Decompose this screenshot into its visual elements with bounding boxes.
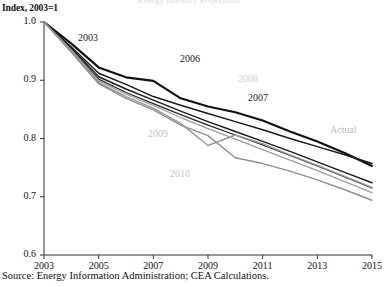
series-label-2003: 2003 [78, 32, 98, 43]
series-line-2003 [44, 22, 372, 164]
x-tick-label: 2015 [352, 260, 387, 271]
series-line-actual [44, 22, 372, 166]
series-label-actual: Actual [330, 124, 357, 135]
series-line-2010 [44, 22, 372, 200]
y-tick-label: 0.7 [8, 190, 36, 201]
y-tick-label: 0.8 [8, 132, 36, 143]
y-tick-label: 0.9 [8, 73, 36, 84]
y-tick-label: 1.0 [8, 15, 36, 26]
series-line-2006 [44, 22, 372, 183]
y-tick-label: 0.6 [8, 248, 36, 259]
series-line-2007 [44, 22, 372, 188]
series-label-2007: 2007 [248, 92, 268, 103]
series-line-2009 [44, 22, 372, 187]
series-label-2010: 2010 [170, 168, 190, 179]
source-note: Source: Energy Information Administratio… [2, 270, 269, 281]
x-tick-label: 2013 [297, 260, 337, 271]
series-label-2009: 2009 [148, 128, 168, 139]
series-label-2008: 2008 [238, 73, 258, 84]
series-label-2006: 2006 [180, 53, 200, 64]
axis-lines [44, 22, 372, 255]
